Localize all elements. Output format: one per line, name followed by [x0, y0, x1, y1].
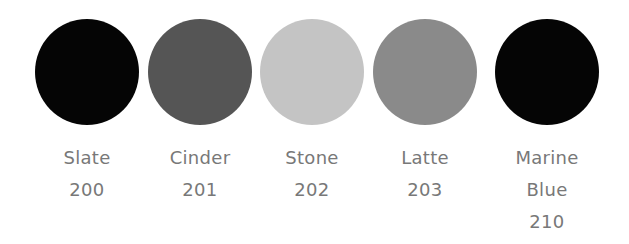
swatch-code: 202	[285, 174, 338, 206]
color-circle-slate	[35, 19, 139, 125]
color-circle-marine-blue	[495, 19, 599, 125]
swatch-code: 201	[170, 174, 231, 206]
color-circle-cinder	[148, 19, 252, 125]
swatch-code: 210	[515, 206, 578, 238]
swatch-name: Stone	[285, 142, 338, 174]
swatch-stone: Stone 202	[256, 19, 368, 206]
swatch-cinder: Cinder 201	[144, 19, 256, 206]
swatch-name: Slate	[63, 142, 110, 174]
swatch-code: 203	[401, 174, 449, 206]
swatch-name: Cinder	[170, 142, 231, 174]
swatch-label: Stone 202	[285, 142, 338, 206]
color-circle-latte	[373, 19, 477, 125]
swatch-code: 200	[63, 174, 110, 206]
swatch-slate: Slate 200	[31, 19, 143, 206]
swatch-marine-blue: Marine Blue 210	[491, 19, 603, 238]
swatch-name-line2: Blue	[515, 174, 578, 206]
swatch-latte: Latte 203	[369, 19, 481, 206]
color-swatch-row: Slate 200 Cinder 201 Stone 202 Latte 203…	[0, 0, 629, 244]
swatch-name: Latte	[401, 142, 449, 174]
swatch-label: Latte 203	[401, 142, 449, 206]
swatch-label: Slate 200	[63, 142, 110, 206]
swatch-name-line1: Marine	[515, 142, 578, 174]
color-circle-stone	[260, 19, 364, 125]
swatch-label: Cinder 201	[170, 142, 231, 206]
swatch-label: Marine Blue 210	[515, 142, 578, 238]
